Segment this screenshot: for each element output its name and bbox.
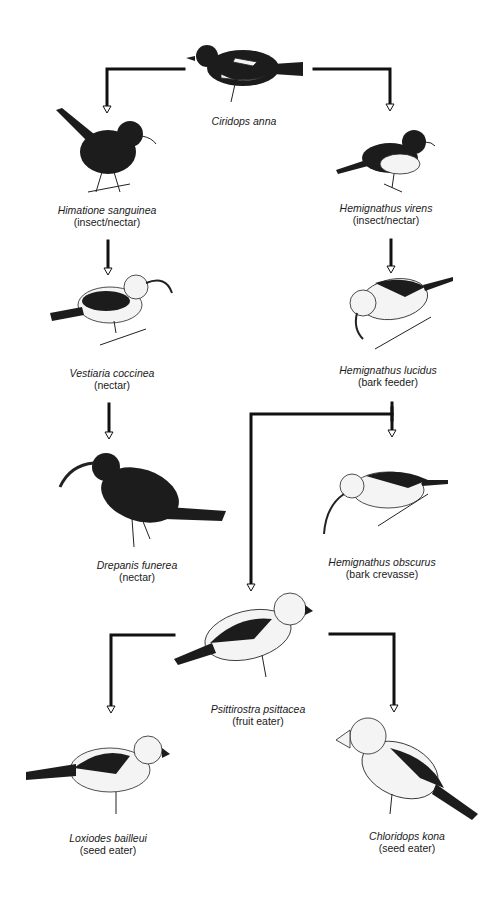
bird-hemignathus-obscurus-illustration	[324, 472, 448, 534]
phylogeny-diagram	[0, 0, 493, 909]
node-chloridops: Chloridops kona (seed eater)	[369, 830, 445, 854]
node-hemignathus-obscurus: Hemignathus obscurus (bark crevasse)	[328, 556, 435, 580]
bird-himatione-illustration	[56, 108, 156, 192]
species-name: Loxiodes bailleui	[69, 832, 147, 844]
arrowhead-loxiodes	[107, 706, 115, 713]
connector-ciridops-himatione	[107, 69, 184, 106]
diet-label: (nectar)	[97, 571, 178, 583]
species-name: Drepanis funerea	[97, 559, 178, 571]
species-name: Psittirostra psittacea	[211, 703, 306, 715]
arrowhead-psittirostra	[247, 584, 255, 591]
species-name: Himatione sanguinea	[58, 204, 157, 216]
node-loxiodes: Loxiodes bailleui (seed eater)	[69, 832, 147, 856]
diet-label: (nectar)	[70, 379, 155, 391]
arrowhead-drepanis	[105, 432, 113, 439]
arrowhead-himatione	[103, 106, 111, 113]
species-name: Hemignathus lucidus	[339, 364, 436, 376]
diet-label: (seed eater)	[69, 844, 147, 856]
node-hemignathus-virens: Hemignathus virens (insect/nectar)	[340, 202, 433, 226]
diet-label: (insect/nectar)	[340, 214, 433, 226]
diet-label: (insect/nectar)	[58, 216, 157, 228]
species-name: Hemignathus obscurus	[328, 556, 435, 568]
arrowhead-obscurus	[388, 430, 396, 437]
diet-label: (bark crevasse)	[328, 568, 435, 580]
bird-drepanis-illustration	[60, 453, 226, 547]
node-psittirostra: Psittirostra psittacea (fruit eater)	[211, 703, 306, 727]
bird-loxiodes-illustration	[26, 736, 170, 814]
diet-label: (bark feeder)	[339, 376, 436, 388]
arrowhead-vestiaria	[104, 268, 112, 275]
diet-label: (seed eater)	[369, 842, 445, 854]
node-vestiaria: Vestiaria coccinea (nectar)	[70, 367, 155, 391]
node-ciridops: Ciridops anna	[212, 115, 277, 127]
bird-ciridops-illustration	[186, 45, 303, 102]
arrowhead-lucidus	[387, 266, 395, 273]
arrowhead-virens	[386, 104, 394, 111]
connector-psittirostra-chloridops	[330, 634, 394, 705]
connector-psittirostra-loxiodes	[111, 635, 174, 706]
species-name: Chloridops kona	[369, 830, 445, 842]
node-hemignathus-lucidus: Hemignathus lucidus (bark feeder)	[339, 364, 436, 388]
diet-label: (fruit eater)	[211, 715, 306, 727]
arrowhead-chloridops	[390, 705, 398, 712]
bird-chloridops-illustration	[336, 718, 478, 820]
node-drepanis: Drepanis funerea (nectar)	[97, 559, 178, 583]
bird-hemignathus-virens-illustration	[336, 130, 435, 192]
bird-psittirostra-illustration	[174, 593, 313, 677]
bird-hemignathus-lucidus-illustration	[350, 273, 453, 349]
species-name: Hemignathus virens	[340, 202, 433, 214]
connector-ciridops-virens	[314, 69, 390, 104]
species-name: Vestiaria coccinea	[70, 367, 155, 379]
node-himatione: Himatione sanguinea (insect/nectar)	[58, 204, 157, 228]
bird-vestiaria-illustration	[50, 275, 172, 345]
species-name: Ciridops anna	[212, 115, 277, 127]
